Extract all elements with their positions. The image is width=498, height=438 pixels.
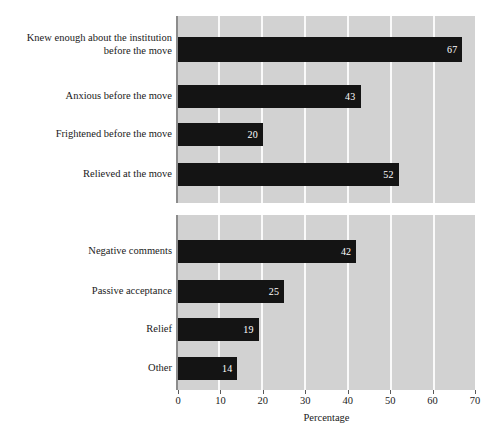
x-tick-mark-30 bbox=[305, 390, 306, 394]
category-label-other: Other bbox=[8, 362, 172, 375]
category-label-relief: Relief bbox=[8, 323, 172, 336]
x-axis-title: Percentage bbox=[178, 412, 475, 423]
category-label-passive-acceptance: Passive acceptance bbox=[8, 285, 172, 298]
bar-other: 14 bbox=[178, 357, 237, 380]
bar-value-label: 25 bbox=[269, 287, 279, 297]
x-tick-label-70: 70 bbox=[470, 395, 481, 406]
x-tick-mark-0 bbox=[178, 390, 179, 394]
x-tick-label-20: 20 bbox=[258, 395, 269, 406]
bar-value-label: 52 bbox=[383, 170, 393, 180]
x-tick-mark-40 bbox=[348, 390, 349, 394]
bar-value-label: 20 bbox=[247, 130, 257, 140]
bar-anxious: 43 bbox=[178, 85, 361, 108]
category-label-knew-enough: Knew enough about the institution before… bbox=[8, 32, 172, 57]
x-tick-label-0: 0 bbox=[175, 395, 180, 406]
category-label-anxious: Anxious before the move bbox=[8, 90, 172, 103]
bar-passive-acceptance: 25 bbox=[178, 280, 284, 303]
bar-relieved: 52 bbox=[178, 163, 399, 186]
bar-frightened: 20 bbox=[178, 123, 263, 146]
x-tick-label-30: 30 bbox=[300, 395, 311, 406]
x-tick-label-40: 40 bbox=[342, 395, 353, 406]
gridline-50-bottom bbox=[390, 215, 392, 390]
bar-value-label: 42 bbox=[341, 247, 351, 257]
category-label-frightened: Frightened before the move bbox=[8, 128, 172, 141]
bar-negative-comments: 42 bbox=[178, 240, 356, 263]
category-label-relieved: Relieved at the move bbox=[8, 168, 172, 181]
x-tick-label-10: 10 bbox=[215, 395, 226, 406]
bar-relief: 19 bbox=[178, 318, 259, 341]
category-label-negative-comments: Negative comments bbox=[8, 245, 172, 258]
x-tick-mark-10 bbox=[220, 390, 221, 394]
x-tick-mark-60 bbox=[433, 390, 434, 394]
bar-value-label: 67 bbox=[447, 45, 457, 55]
x-tick-mark-50 bbox=[390, 390, 391, 394]
chart-panel-top: 67 43 20 52 bbox=[178, 16, 475, 203]
bar-value-label: 19 bbox=[243, 325, 253, 335]
bar-value-label: 43 bbox=[345, 92, 355, 102]
gridline-60-bottom bbox=[433, 215, 435, 390]
bar-value-label: 14 bbox=[222, 364, 232, 374]
x-tick-label-50: 50 bbox=[385, 395, 396, 406]
x-tick-label-60: 60 bbox=[427, 395, 438, 406]
bar-knew-enough: 67 bbox=[178, 37, 462, 62]
chart-panel-bottom: 42 25 19 14 bbox=[178, 215, 475, 390]
x-tick-mark-70 bbox=[475, 390, 476, 394]
bar-chart-figure: 67 43 20 52 Knew enough about the instit… bbox=[0, 0, 498, 438]
x-axis: 0 10 20 30 40 50 60 70 Percentage bbox=[178, 390, 475, 438]
x-tick-mark-20 bbox=[263, 390, 264, 394]
